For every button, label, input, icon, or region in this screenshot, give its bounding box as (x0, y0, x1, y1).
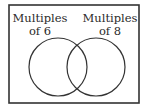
venn-diagram-canvas: Multiples of 6 Multiples of 8 (0, 0, 148, 107)
set-label-right-line2: of 8 (99, 24, 121, 38)
set-label-left-line1: Multiples (13, 11, 68, 25)
set-circle-multiples-of-6 (29, 38, 87, 96)
venn-diagram: Multiples of 6 Multiples of 8 (0, 0, 148, 107)
set-label-right-line1: Multiples (83, 11, 138, 25)
set-label-left-line2: of 6 (29, 24, 51, 38)
set-circle-multiples-of-8 (67, 38, 125, 96)
